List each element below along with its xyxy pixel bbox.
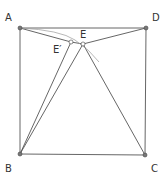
- square-abcd: [20, 28, 146, 155]
- geometry-diagram: A D B C E E′: [0, 0, 167, 179]
- segment-ec: [83, 44, 145, 155]
- point-a: [18, 26, 22, 30]
- point-d: [144, 26, 148, 30]
- label-e: E: [80, 29, 86, 40]
- point-e: [81, 42, 85, 46]
- label-e-prime: E′: [53, 44, 62, 55]
- point-b: [18, 152, 22, 156]
- segment-dc: [145, 28, 146, 155]
- segment-ed: [83, 28, 146, 44]
- label-a: A: [5, 12, 12, 23]
- label-c: C: [151, 163, 158, 174]
- segment-cb: [20, 154, 145, 155]
- segment-be-prime: [20, 42, 71, 154]
- point-c: [143, 153, 147, 157]
- vertex-points: [18, 26, 148, 157]
- point-e-prime: [69, 40, 73, 44]
- interior-segments: [20, 28, 146, 155]
- segment-ae-prime: [20, 28, 71, 42]
- label-b: B: [5, 163, 12, 174]
- segment-be: [20, 44, 83, 154]
- label-d: D: [152, 12, 160, 23]
